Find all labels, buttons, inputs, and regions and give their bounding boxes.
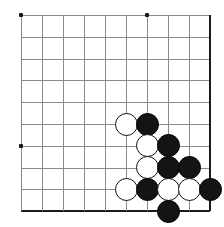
black-stone[interactable] [199, 178, 222, 201]
black-stone[interactable] [178, 156, 201, 179]
black-stone[interactable] [157, 134, 180, 157]
white-stone[interactable] [178, 178, 201, 201]
white-stone[interactable] [157, 178, 180, 201]
go-board-diagram [0, 0, 224, 227]
black-stone[interactable] [157, 156, 180, 179]
white-stone[interactable] [136, 156, 159, 179]
board-stones [0, 0, 224, 227]
white-stone[interactable] [136, 134, 159, 157]
white-stone[interactable] [115, 113, 138, 136]
black-stone[interactable] [157, 200, 180, 223]
white-stone[interactable] [115, 178, 138, 201]
black-stone[interactable] [136, 178, 159, 201]
black-stone[interactable] [136, 113, 159, 136]
